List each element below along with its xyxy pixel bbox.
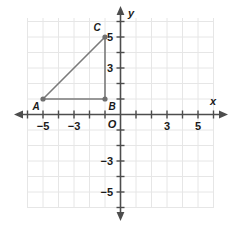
x-tick-label-neg3: −3	[68, 120, 81, 132]
x-tick-label-3: 3	[164, 120, 170, 132]
coordinate-plane-figure: −5 −3 3 5 5 3 −3 −5 O x y A B C	[0, 0, 241, 228]
x-tick-label-neg5: −5	[37, 120, 50, 132]
point-b-marker	[102, 96, 107, 101]
point-a-marker	[40, 96, 45, 101]
y-tick-label-neg3: −3	[100, 155, 113, 167]
x-axis-arrow-left	[14, 111, 23, 119]
y-tick-label-neg5: −5	[100, 186, 113, 198]
point-c-label: C	[93, 22, 101, 33]
point-a-label: A	[31, 101, 39, 112]
point-b-label: B	[108, 101, 115, 112]
origin-label: O	[108, 118, 117, 130]
y-axis-arrow-up	[117, 6, 125, 15]
y-axis-label: y	[127, 7, 135, 19]
x-tick-label-5: 5	[195, 120, 201, 132]
x-axis-label: x	[209, 95, 217, 107]
y-axis-arrow-down	[117, 212, 125, 221]
point-c-marker	[102, 34, 107, 39]
y-tick-label-3: 3	[107, 62, 113, 74]
y-tick-label-5: 5	[107, 31, 113, 43]
x-axis-arrow-right	[219, 111, 228, 119]
axes	[14, 6, 228, 221]
plot-svg: −5 −3 3 5 5 3 −3 −5 O x y A B C	[0, 0, 241, 228]
